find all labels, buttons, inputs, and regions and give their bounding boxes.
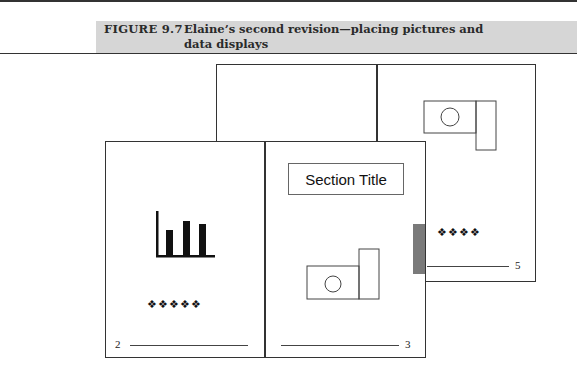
folio-rule [281,345,399,346]
page-number: 3 [405,338,411,350]
camera-icon [0,0,577,377]
